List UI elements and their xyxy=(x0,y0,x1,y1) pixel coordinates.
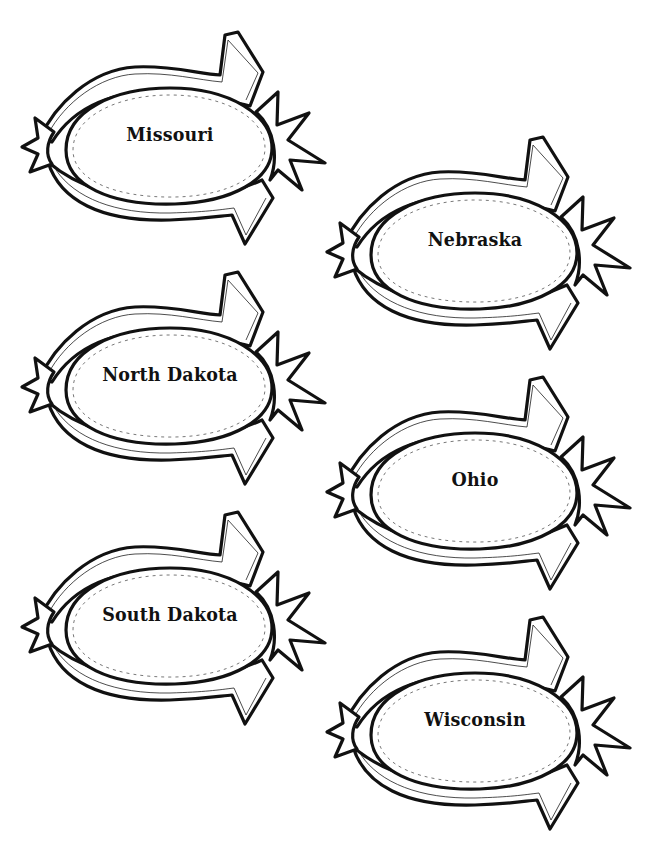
state-label: Missouri xyxy=(69,122,271,146)
state-badge-ohio: Ohio xyxy=(325,375,635,595)
state-badge-wisconsin: Wisconsin xyxy=(325,615,635,835)
state-badge-nebraska: Nebraska xyxy=(325,135,635,355)
state-badge-south-dakota: South Dakota xyxy=(20,510,330,730)
state-label: Nebraska xyxy=(374,227,576,251)
state-label: North Dakota xyxy=(69,362,271,386)
state-label: Wisconsin xyxy=(374,707,576,731)
state-badge-missouri: Missouri xyxy=(20,30,330,250)
state-label: South Dakota xyxy=(69,602,271,626)
state-badge-north-dakota: North Dakota xyxy=(20,270,330,490)
state-label: Ohio xyxy=(374,467,576,491)
